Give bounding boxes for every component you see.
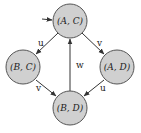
initial-state-arrow	[42, 19, 52, 20]
edge-label-u-left: u	[38, 38, 44, 48]
node-bd: (B, D)	[53, 91, 87, 125]
node-label-ac: (A, C)	[57, 16, 84, 26]
edge-label-u-right: u	[100, 83, 106, 93]
node-bc: (B, C)	[6, 50, 40, 84]
node-label-ad: (A, D)	[104, 62, 131, 72]
edge-label-v-left: v	[35, 83, 42, 93]
node-label-bc: (B, C)	[10, 62, 37, 72]
state-diagram: u v v u w (A, C) (B, C) (A, D) (B, D)	[0, 0, 141, 133]
edge-label-v-right: v	[96, 38, 103, 48]
node-ac: (A, C)	[53, 4, 87, 38]
node-ad: (A, D)	[100, 50, 134, 84]
edge-label-w: w	[76, 60, 84, 70]
node-label-bd: (B, D)	[57, 103, 84, 113]
